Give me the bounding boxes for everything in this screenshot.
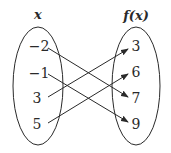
- domain-value: 5: [33, 116, 42, 132]
- domain-value: −2: [29, 38, 50, 54]
- domain-header: x: [33, 7, 42, 22]
- domain-value: −1: [29, 65, 50, 81]
- range-value: 7: [132, 90, 141, 106]
- range-value: 6: [132, 64, 141, 80]
- mapping-diagram: x f(x) −2 −1 3 5 3 6 7 9: [0, 0, 171, 153]
- range-value: 3: [132, 38, 141, 54]
- range-value: 9: [132, 116, 141, 132]
- domain-value: 3: [33, 90, 42, 106]
- range-header: f(x): [122, 8, 149, 23]
